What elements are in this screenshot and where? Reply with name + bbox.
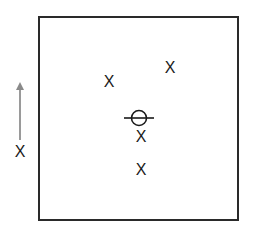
up-arrow-icon: [16, 82, 24, 90]
marker-x-4: X: [136, 162, 147, 178]
marker-x-2: X: [165, 60, 176, 76]
reference-circle-icon: [122, 108, 156, 128]
marker-x-3: X: [136, 129, 147, 145]
marker-x-1: X: [104, 74, 115, 90]
direction-label: X: [15, 144, 26, 160]
direction-arrow-shaft: [19, 84, 21, 140]
